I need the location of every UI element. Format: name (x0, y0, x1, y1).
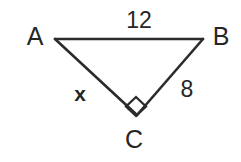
side-ac-line (55, 39, 137, 115)
side-length-ac: x (74, 83, 86, 104)
vertex-label-a: A (27, 24, 44, 49)
geometry-figure: A B C 12 x 8 (0, 0, 241, 162)
side-length-bc: 8 (181, 78, 194, 101)
side-length-ab: 12 (126, 9, 152, 32)
vertex-label-c: C (125, 127, 143, 152)
vertex-label-b: B (213, 24, 230, 49)
